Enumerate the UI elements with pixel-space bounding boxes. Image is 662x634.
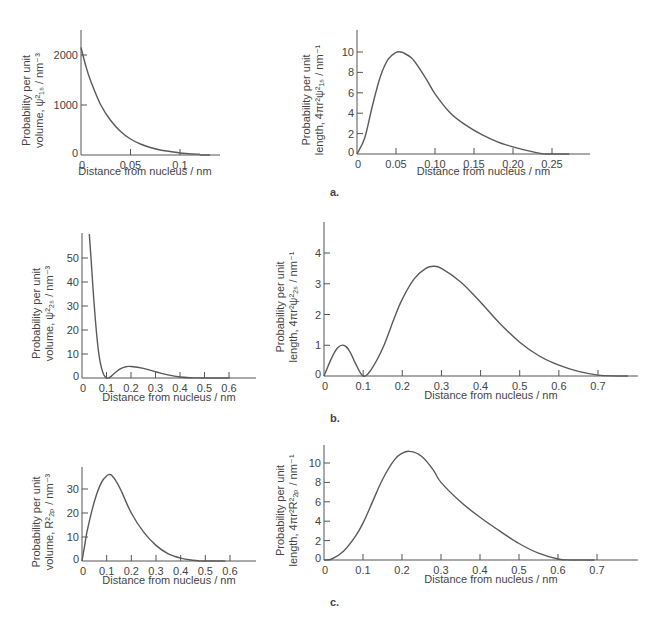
y-axis-label-line2: volume, ψ²₁ₛ / nm⁻³	[33, 53, 45, 148]
y-tick-label: 0	[72, 147, 78, 159]
probability-curve	[357, 52, 544, 154]
probability-curve	[81, 48, 200, 155]
probability-curve	[324, 266, 618, 376]
y-tick-label: 1	[315, 339, 321, 351]
panel-label-c: c.	[330, 596, 339, 608]
x-tick-label: 0.2	[395, 380, 410, 392]
y-tick-label: 10	[309, 457, 321, 469]
y-axis-label-line2: volume, R²₂ₚ / nm⁻³	[43, 473, 55, 570]
y-axis-label-line1: Probability per unit	[20, 55, 32, 146]
y-axis-label-line1: Probability per unit	[274, 261, 286, 352]
x-axis-label: Distance from nucleus / nm	[424, 389, 557, 401]
y-tick-label: 2	[348, 128, 354, 140]
y-tick-label: 40	[67, 276, 79, 288]
y-tick-label: 0	[73, 370, 79, 382]
y-tick-label: 20	[67, 507, 79, 519]
x-axis-label: Distance from nucleus / nm	[78, 165, 211, 177]
x-tick-label: 0.7	[589, 564, 604, 576]
y-tick-label: 2	[315, 309, 321, 321]
y-axis-label-line2: length, 4πr²R²₂ₚ / nm⁻¹	[287, 454, 299, 566]
y-tick-label: 1000	[54, 99, 78, 111]
y-tick-label: 20	[67, 324, 79, 336]
x-tick-label: 0	[322, 564, 328, 576]
y-tick-label: 2	[315, 535, 321, 547]
y-tick-label: 4	[348, 107, 354, 119]
y-tick-label: 0	[315, 368, 321, 380]
y-axis-label-line1: Probability per unit	[30, 476, 42, 567]
x-axis-label: Distance from nucleus / nm	[102, 391, 235, 403]
x-tick-label: 0	[80, 565, 86, 577]
y-tick-label: 6	[315, 496, 321, 508]
y-axis-label-line1: Probability per unit	[30, 268, 42, 359]
y-tick-label: 8	[348, 66, 354, 78]
x-tick-label: 0	[80, 382, 86, 394]
probability-curve	[82, 474, 200, 561]
y-tick-label: 6	[348, 87, 354, 99]
y-axis-label-line2: length, 4πr²ψ²₁ₛ / nm⁻¹	[313, 44, 325, 155]
y-tick-label: 4	[315, 247, 321, 259]
y-axis-label-line1: Probability per unit	[274, 465, 286, 556]
panel-label-a: a.	[330, 186, 339, 198]
x-tick-label: 0	[322, 380, 328, 392]
y-tick-label: 0	[73, 553, 79, 565]
x-axis-label: Distance from nucleus / nm	[102, 574, 235, 586]
y-axis-label-line2: volume, ψ²₂ₛ / nm⁻³	[43, 265, 55, 361]
y-tick-label: 10	[67, 348, 79, 360]
probability-curve	[324, 451, 570, 560]
y-tick-label: 0	[315, 552, 321, 564]
y-tick-label: 4	[315, 515, 321, 527]
x-tick-label: 0.05	[385, 158, 406, 170]
y-tick-label: 3	[315, 278, 321, 290]
x-axis-label: Distance from nucleus / nm	[417, 165, 550, 177]
y-tick-label: 50	[67, 252, 79, 264]
probability-curve	[89, 234, 204, 378]
y-tick-label: 8	[315, 476, 321, 488]
x-axis-label: Distance from nucleus / nm	[424, 573, 557, 585]
y-tick-label: 30	[67, 300, 79, 312]
y-tick-label: 10	[342, 46, 354, 58]
orbital-probability-figure: 00.050.1010002000Distance from nucleus /…	[0, 0, 662, 634]
y-axis-label-line1: Probability per unit	[300, 54, 312, 145]
y-tick-label: 0	[348, 146, 354, 158]
x-tick-label: 0.2	[394, 564, 409, 576]
x-tick-label: 0.1	[355, 564, 370, 576]
y-tick-label: 10	[67, 531, 79, 543]
panel-label-b: b.	[330, 412, 340, 424]
x-tick-label: 0.7	[590, 380, 605, 392]
y-tick-label: 2000	[54, 49, 78, 61]
x-tick-label: 0.1	[355, 380, 370, 392]
y-axis-label-line2: length, 4πr²ψ²₂ₛ / nm⁻¹	[287, 251, 299, 362]
y-tick-label: 30	[67, 483, 79, 495]
x-tick-label: 0	[355, 158, 361, 170]
